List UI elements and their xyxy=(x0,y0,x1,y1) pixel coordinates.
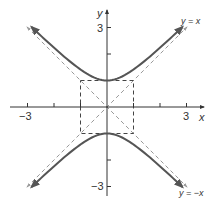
hyperbola-chart: y x 3 −3 −3 3 y = x y = −x xyxy=(0,0,219,201)
tick-label-y-pos: 3 xyxy=(97,22,103,34)
y-axis-label: y xyxy=(96,7,104,19)
asymptote-label-y-equals-neg-x: y = −x xyxy=(178,188,204,198)
asymptote-label-y-equals-x: y = x xyxy=(180,16,201,26)
tick-label-x-neg: −3 xyxy=(19,110,32,122)
tick-label-y-neg: −3 xyxy=(91,180,104,192)
x-axis-label: x xyxy=(198,111,205,123)
tick-label-x-pos: 3 xyxy=(183,110,189,122)
